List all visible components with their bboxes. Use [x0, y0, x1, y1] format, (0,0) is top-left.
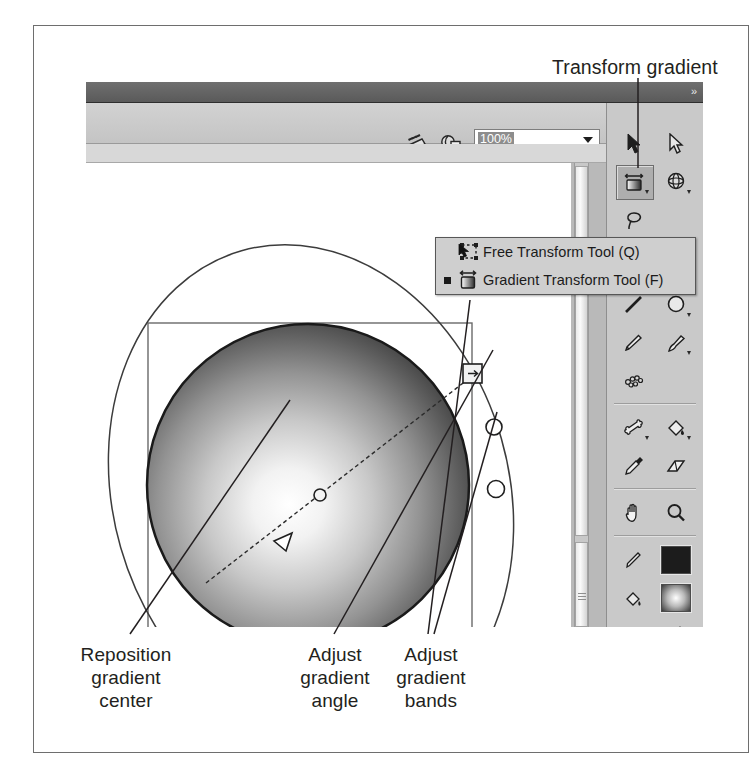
- magnifier-icon: [665, 502, 687, 524]
- lasso-tool[interactable]: [613, 201, 655, 239]
- eraser-tool[interactable]: [655, 447, 697, 485]
- edit-bar: 100%: [86, 103, 606, 144]
- menu-item-free-transform-tool[interactable]: Free Transform Tool (Q): [436, 238, 695, 266]
- stroke-color-swatch[interactable]: [655, 541, 697, 579]
- palette-divider: [614, 535, 696, 537]
- tool-options-arrow-icon[interactable]: [687, 436, 691, 440]
- stroke-color-tool[interactable]: [613, 541, 655, 579]
- eyedropper-tool[interactable]: [613, 447, 655, 485]
- palette-divider: [614, 403, 696, 405]
- callout-transform-gradient: Transform gradient: [552, 56, 718, 79]
- stage-canvas[interactable]: [86, 163, 571, 627]
- subselection-tool[interactable]: [655, 125, 697, 163]
- black-and-white-icon: [623, 626, 645, 627]
- stroke-pencil-icon: [623, 549, 645, 571]
- zoom-tool[interactable]: [655, 494, 697, 532]
- hand-icon: [622, 501, 646, 525]
- scrollbar-thumb-lower[interactable]: [575, 542, 588, 627]
- tool-options-arrow-icon[interactable]: [687, 351, 691, 355]
- fill-color-tool[interactable]: [613, 579, 655, 617]
- sphere-shape: [147, 324, 469, 627]
- selection-tool[interactable]: [613, 125, 655, 163]
- gradient-transform-tool[interactable]: [613, 163, 655, 201]
- brush-icon: [665, 332, 687, 354]
- swap-colors-tool[interactable]: [655, 617, 697, 627]
- 3d-rotation-tool[interactable]: [655, 163, 697, 201]
- application-titlebar: »: [86, 82, 703, 103]
- swap-colors-icon: [664, 626, 688, 627]
- fill-color-swatch[interactable]: [655, 579, 697, 617]
- flash-application-window: »: [86, 82, 703, 627]
- panel-collapse-chevrons-icon[interactable]: »: [691, 85, 696, 97]
- bone-tool[interactable]: [613, 409, 655, 447]
- fill-bucket-icon: [623, 587, 645, 609]
- eyedropper-icon: [623, 455, 645, 477]
- lasso-icon: [623, 209, 645, 231]
- free-transform-icon: [453, 242, 483, 262]
- selected-bullet-icon: [442, 277, 453, 284]
- chevron-down-icon[interactable]: [583, 137, 593, 143]
- tool-options-dropdown-menu[interactable]: Free Transform Tool (Q): [435, 237, 696, 295]
- hollow-arrow-cursor-icon: [667, 133, 685, 155]
- paint-bucket-tool[interactable]: [655, 409, 697, 447]
- pencil-tool[interactable]: [613, 324, 655, 362]
- deco-icon: [622, 371, 646, 391]
- brush-tool[interactable]: [655, 324, 697, 362]
- scrollbar-thumb-upper[interactable]: [575, 166, 588, 536]
- deco-tool[interactable]: [613, 362, 655, 400]
- tools-panel[interactable]: T: [606, 103, 703, 627]
- menu-item-gradient-transform-tool[interactable]: Gradient Transform Tool (F): [436, 266, 695, 294]
- callout-reposition-gradient-center: Reposition gradient center: [62, 643, 190, 712]
- stroke-color-swatch-box[interactable]: [661, 546, 691, 574]
- palette-divider: [614, 488, 696, 490]
- gradient-transform-icon: [453, 269, 483, 291]
- menu-item-label: Gradient Transform Tool (F): [483, 272, 664, 288]
- scrollbar-grip-icon[interactable]: [578, 593, 586, 600]
- fill-color-swatch-box[interactable]: [661, 584, 691, 612]
- tool-blank-1: [655, 201, 697, 239]
- 3d-rotation-icon: [665, 171, 687, 193]
- callout-adjust-gradient-angle: Adjust gradient angle: [296, 643, 374, 712]
- pencil-icon: [623, 332, 645, 354]
- oval-icon: [665, 294, 687, 316]
- tool-options-arrow-icon[interactable]: [687, 190, 691, 194]
- hand-tool[interactable]: [613, 494, 655, 532]
- arrow-cursor-icon: [625, 133, 643, 155]
- callout-adjust-gradient-bands: Adjust gradient bands: [392, 643, 470, 712]
- eraser-icon: [665, 456, 687, 476]
- tool-options-arrow-icon[interactable]: [645, 436, 649, 440]
- timeline-strip: [86, 144, 606, 163]
- gradient-transform-icon: [623, 172, 645, 192]
- line-icon: [623, 294, 645, 316]
- tool-blank-2: [655, 362, 697, 400]
- paint-bucket-icon: [665, 417, 687, 439]
- stage-artwork: [86, 163, 571, 627]
- tool-options-arrow-icon[interactable]: [645, 190, 649, 194]
- black-and-white-tool[interactable]: [613, 617, 655, 627]
- menu-item-label: Free Transform Tool (Q): [483, 244, 640, 260]
- tool-options-arrow-icon[interactable]: [687, 313, 691, 317]
- bone-icon: [622, 417, 646, 439]
